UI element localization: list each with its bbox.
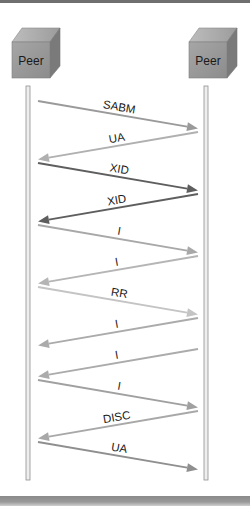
message-arrow-line [49, 256, 198, 282]
message-1: SABM [38, 98, 198, 131]
arrowhead-icon [186, 308, 198, 317]
message-12: UA [38, 441, 198, 472]
message-label: UA [110, 441, 128, 456]
arrowhead-icon [186, 184, 198, 193]
arrowhead-icon [38, 432, 50, 441]
message-arrow-line [38, 225, 187, 251]
message-arrow-line [38, 380, 187, 406]
message-10: I [38, 380, 198, 410]
peer-right-label: Peer [195, 54, 220, 68]
message-9: I [38, 349, 198, 379]
message-label: XID [109, 161, 130, 176]
messages-group: SABMUAXIDXIDIIRRIIIDISCUA [38, 98, 198, 472]
arrowhead-icon [186, 122, 198, 131]
message-7: RR [38, 286, 198, 318]
message-label: I [117, 380, 122, 392]
message-label: I [114, 256, 119, 268]
message-3: XID [38, 161, 198, 193]
message-11: DISC [38, 409, 198, 441]
arrowhead-icon [186, 401, 198, 410]
message-5: I [38, 225, 198, 255]
message-label: XID [106, 192, 127, 207]
message-arrow-line [49, 318, 198, 344]
peer-right: Peer [189, 28, 237, 78]
arrowhead-icon [38, 277, 50, 286]
message-2: UA [38, 131, 198, 163]
message-arrow-line [49, 349, 198, 375]
message-label: I [114, 318, 119, 330]
arrowhead-icon [38, 215, 50, 224]
peer-left: Peer [12, 28, 60, 78]
message-label: I [117, 225, 122, 237]
message-label: I [114, 349, 119, 361]
sequence-diagram: Peer Peer SABMUAXIDXIDIIRRIIIDISCUA [0, 0, 250, 506]
message-label: RR [110, 286, 128, 301]
arrowhead-icon [186, 246, 198, 255]
message-6: I [38, 256, 198, 286]
message-8: I [38, 318, 198, 348]
lifeline-right [204, 86, 208, 480]
arrowhead-icon [38, 339, 50, 348]
message-label: UA [108, 131, 126, 146]
bottom-border [0, 496, 250, 506]
arrowhead-icon [38, 153, 50, 162]
peer-left-label: Peer [18, 54, 43, 68]
arrowhead-icon [38, 370, 50, 379]
arrowhead-icon [186, 463, 198, 472]
message-4: XID [38, 192, 198, 224]
lifeline-left [26, 86, 30, 480]
